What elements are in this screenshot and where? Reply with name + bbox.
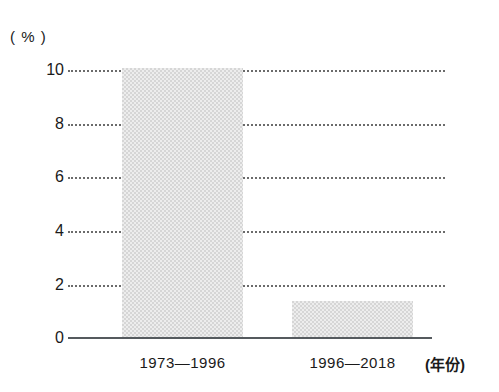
bar-chart: ( % ) 10 8 6 4 2 0 1973—1996 1996—2018 (…	[0, 0, 499, 392]
y-tick-label-2: 2	[18, 277, 64, 293]
x-category-label-1: 1973—1996	[122, 354, 243, 371]
y-tick-label-10: 10	[18, 62, 64, 78]
x-category-label-2: 1996—2018	[292, 354, 413, 371]
x-axis-unit-label: (年份)	[425, 353, 465, 374]
y-tick-label-8: 8	[18, 116, 64, 132]
bar-1996-2018	[292, 301, 413, 338]
plot-area	[68, 60, 445, 338]
x-axis-line	[68, 337, 432, 339]
y-tick-label-6: 6	[18, 169, 64, 185]
y-tick-label-4: 4	[18, 223, 64, 239]
y-tick-label-0: 0	[18, 330, 64, 346]
bar-1973-1996	[122, 68, 243, 338]
y-axis-unit-label: ( % )	[10, 28, 47, 45]
